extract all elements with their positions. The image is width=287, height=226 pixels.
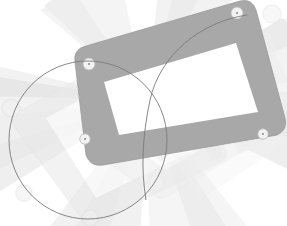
bolt-hole-top-left[interactable] (83, 58, 95, 70)
bolt-hole-bottom-left[interactable] (80, 134, 90, 144)
bolt-hole-bottom-right[interactable] (258, 129, 268, 139)
cad-viewport[interactable]: CAD Viewport 3D Motion Study 100% Bracke… (0, 0, 287, 226)
cad-scene-canvas[interactable] (0, 0, 287, 226)
